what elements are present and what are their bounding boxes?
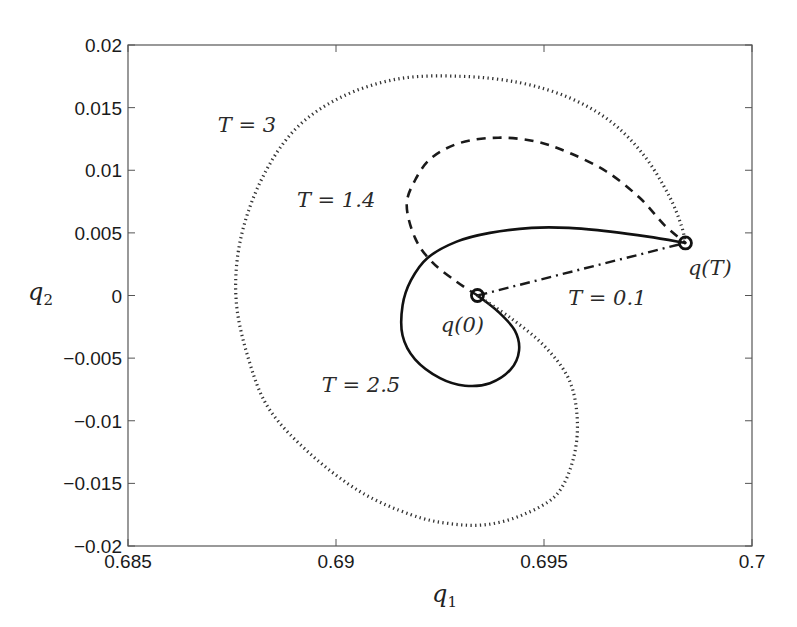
- axis-ticks: 0.6850.690.6950.70.020.0150.010.0050−0.0…: [63, 35, 765, 572]
- curve-annotations: T = 3T = 1.4T = 2.5T = 0.1q(0)q(T): [218, 113, 732, 397]
- x-tick-label: 0.7: [739, 551, 765, 572]
- curve-annotation: T = 0.1: [568, 286, 646, 310]
- curve-annotation: q(0): [441, 313, 484, 337]
- x-axis-label: q1: [432, 580, 457, 611]
- curve-annotation: T = 1.4: [297, 188, 375, 212]
- y-tick-label: −0.015: [63, 473, 122, 494]
- y-tick-label: −0.01: [74, 411, 122, 432]
- y-tick-label: 0.005: [74, 223, 122, 244]
- x-tick-label: 0.695: [520, 551, 568, 572]
- y-tick-label: 0.02: [85, 35, 122, 56]
- y-axis-label: q2: [28, 278, 53, 309]
- y-tick-label: 0.015: [74, 98, 122, 119]
- curve-annotation: T = 3: [218, 113, 276, 137]
- curve-t-1-4: [407, 138, 686, 296]
- phase-plot: 0.6850.690.6950.70.020.0150.010.0050−0.0…: [0, 0, 797, 627]
- curve-annotation: T = 2.5: [322, 373, 400, 397]
- curve-annotation: q(T): [688, 256, 732, 280]
- y-tick-label: 0: [111, 286, 122, 307]
- y-tick-label: −0.005: [63, 348, 122, 369]
- x-tick-label: 0.69: [318, 551, 355, 572]
- y-tick-label: −0.02: [74, 536, 122, 557]
- y-tick-label: 0.01: [85, 160, 122, 181]
